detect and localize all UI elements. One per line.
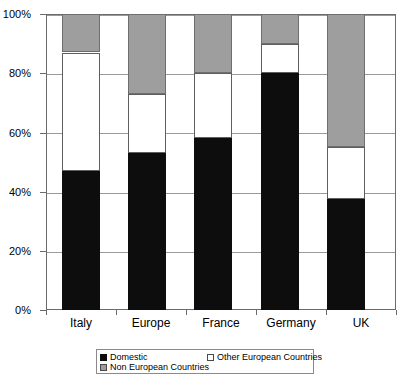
legend-label-domestic: Domestic <box>110 353 148 362</box>
legend-item-other-european[interactable]: Other European Countries <box>207 353 322 362</box>
bars-layer <box>46 14 396 310</box>
legend-item-non-european[interactable]: Non European Countries <box>100 363 209 372</box>
legend-swatch-domestic-icon <box>100 354 107 361</box>
y-axis-label-100: 100% <box>0 9 38 20</box>
chart-legend: Domestic Other European Countries Non Eu… <box>96 349 314 374</box>
x-tick-mark-3 <box>256 310 257 315</box>
legend-label-other-european: Other European Countries <box>217 353 322 362</box>
legend-item-domestic[interactable]: Domestic <box>100 353 148 362</box>
x-tick-mark-0 <box>46 310 47 315</box>
x-tick-mark-1 <box>116 310 117 315</box>
bar-segment-domestic[interactable] <box>128 153 166 310</box>
bar-group-germany[interactable] <box>261 14 299 310</box>
bar-segment-domestic[interactable] <box>261 73 299 310</box>
bar-segment-other-european[interactable] <box>194 73 232 138</box>
bar-segment-non-european[interactable] <box>261 14 299 44</box>
y-axis-label-40: 40% <box>0 187 38 198</box>
y-axis-label-0: 0% <box>0 305 38 316</box>
bar-segment-non-european[interactable] <box>327 14 365 147</box>
bar-group-uk[interactable] <box>327 14 365 310</box>
y-axis-label-80: 80% <box>0 68 38 79</box>
legend-swatch-other-european-icon <box>207 354 214 361</box>
legend-swatch-non-european-icon <box>100 364 107 371</box>
bar-segment-other-european[interactable] <box>62 53 100 171</box>
bar-segment-other-european[interactable] <box>327 147 365 199</box>
x-tick-mark-5 <box>396 310 397 315</box>
bar-segment-other-european[interactable] <box>128 94 166 153</box>
bar-segment-non-european[interactable] <box>62 14 100 52</box>
legend-label-non-european: Non European Countries <box>110 363 209 372</box>
bar-segment-non-european[interactable] <box>128 14 166 94</box>
bar-segment-domestic[interactable] <box>327 199 365 310</box>
bar-group-france[interactable] <box>194 14 232 310</box>
x-axis-label-uk: UK <box>316 316 406 330</box>
bar-segment-other-european[interactable] <box>261 44 299 74</box>
bar-segment-non-european[interactable] <box>194 14 232 73</box>
x-tick-mark-2 <box>186 310 187 315</box>
bar-group-europe[interactable] <box>128 14 166 310</box>
y-axis-label-60: 60% <box>0 128 38 139</box>
stacked-bar-chart: 100% 80% 60% 40% 20% 0% <box>0 0 410 379</box>
x-tick-mark-4 <box>326 310 327 315</box>
bar-segment-domestic[interactable] <box>62 171 100 310</box>
bar-group-italy[interactable] <box>62 14 100 310</box>
y-axis-label-20: 20% <box>0 246 38 257</box>
bar-segment-domestic[interactable] <box>194 138 232 310</box>
